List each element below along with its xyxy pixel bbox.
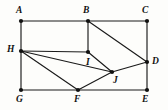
vertex-label-c: C <box>142 6 148 16</box>
edge-hf <box>21 51 78 90</box>
edge-hi <box>21 51 88 52</box>
vertex-label-e: E <box>142 95 148 105</box>
vertex-label-f: F <box>74 95 80 105</box>
edge-hj <box>21 51 112 72</box>
vertex-point-e <box>145 88 149 92</box>
edge-jd <box>112 62 147 72</box>
edge-jf <box>78 72 112 90</box>
edge-bd <box>88 21 147 62</box>
vertex-point-a <box>19 19 23 23</box>
vertex-point-c <box>145 19 149 23</box>
vertex-label-a: A <box>16 6 22 16</box>
vertex-label-i: I <box>86 58 90 68</box>
edge-layer <box>21 21 147 90</box>
vertex-point-g <box>19 88 23 92</box>
vertex-point-h <box>19 49 23 53</box>
vertex-label-h: H <box>7 45 14 55</box>
vertex-point-f <box>76 88 80 92</box>
vertex-point-j <box>110 70 114 74</box>
vertex-label-b: B <box>83 6 89 16</box>
geometry-figure: ABCDEFGHIJ <box>0 0 168 110</box>
vertex-point-d <box>145 60 149 64</box>
vertex-point-i <box>86 50 90 54</box>
vertex-label-d: D <box>152 57 159 67</box>
vertex-label-j: J <box>113 76 118 86</box>
vertex-label-g: G <box>16 95 23 105</box>
vertex-point-b <box>86 19 90 23</box>
